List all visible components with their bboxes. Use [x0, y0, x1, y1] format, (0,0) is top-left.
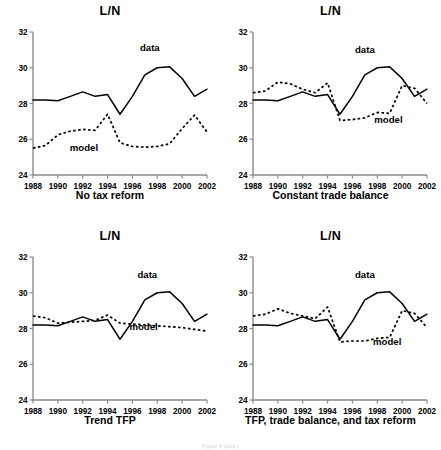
- y-axis-tick-label: 26: [18, 360, 28, 369]
- y-axis-tick-label: 32: [238, 253, 248, 262]
- series-line-data: [33, 67, 207, 114]
- y-axis-tick-label: 24: [18, 171, 28, 180]
- series-annotation-model: model: [70, 142, 98, 153]
- series-line-data: [253, 67, 427, 114]
- chart-panel-tfp-trade-balance-tax-reform: L/N 242628303219881990199219941996199820…: [220, 225, 441, 450]
- figure-panel-grid: L/N 242628303219881990199219941996199820…: [0, 0, 441, 450]
- y-axis-tick-label: 26: [18, 135, 28, 144]
- panel-caption: No tax reform: [0, 189, 220, 201]
- y-axis-tick-label: 28: [18, 100, 28, 109]
- plot-axes: [33, 257, 207, 400]
- y-axis-tick-label: 32: [238, 28, 248, 37]
- plot-axes: [33, 32, 207, 175]
- y-axis-tick-label: 30: [18, 64, 28, 73]
- figure-caption: Figure 4 (cont.): [0, 443, 441, 449]
- series-annotation-data: data: [355, 44, 375, 55]
- y-axis-tick-label: 26: [238, 135, 248, 144]
- panel-caption: Trend TFP: [0, 414, 220, 426]
- series-annotation-model: model: [373, 336, 401, 347]
- panel-caption: Constant trade balance: [220, 189, 441, 201]
- series-annotation-model: model: [374, 114, 402, 125]
- y-axis-tick-label: 30: [238, 64, 248, 73]
- series-line-model: [33, 114, 207, 148]
- series-line-data: [33, 292, 207, 339]
- chart-panel-trend-tfp: L/N 242628303219881990199219941996199820…: [0, 225, 220, 450]
- chart-panel-no-tax-reform: L/N 242628303219881990199219941996199820…: [0, 0, 220, 225]
- series-annotation-data: data: [140, 42, 160, 53]
- y-axis-tick-label: 32: [18, 253, 28, 262]
- y-axis-tick-label: 24: [238, 171, 248, 180]
- y-axis-tick-label: 24: [18, 396, 28, 405]
- series-annotation-data: data: [137, 269, 157, 280]
- series-line-model: [33, 315, 207, 331]
- series-line-data: [253, 292, 427, 339]
- y-axis-tick-label: 28: [238, 100, 248, 109]
- series-annotation-data: data: [355, 269, 375, 280]
- series-annotation-model: model: [129, 321, 157, 332]
- y-axis-tick-label: 30: [18, 289, 28, 298]
- y-axis-tick-label: 28: [238, 325, 248, 334]
- chart-panel-constant-trade-balance: L/N 242628303219881990199219941996199820…: [220, 0, 441, 225]
- y-axis-tick-label: 30: [238, 289, 248, 298]
- plot-axes: [253, 257, 427, 400]
- y-axis-tick-label: 32: [18, 28, 28, 37]
- plot-axes: [253, 32, 427, 175]
- y-axis-tick-label: 28: [18, 325, 28, 334]
- panel-caption: TFP, trade balance, and tax reform: [220, 414, 441, 426]
- y-axis-tick-label: 26: [238, 360, 248, 369]
- y-axis-tick-label: 24: [238, 396, 248, 405]
